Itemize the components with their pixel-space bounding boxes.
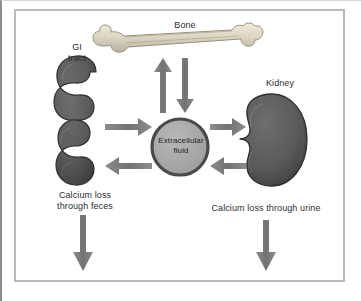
label-calcium-loss-urine: Calcium loss through urine [196,203,336,214]
label-extracellular-fluid: Extracellular fluid [151,136,211,156]
arrow-ecf-to-gi [105,157,152,175]
label-kidney: Kidney [255,78,305,89]
label-gi-tract: GI tract [57,42,97,64]
arrow-ecf-to-kidney [210,118,246,136]
arrow-gi-to-ecf [105,118,152,136]
figure-root: Bone GI tract Kidney Extracellular fluid… [0,0,361,301]
arrow-urine-output [256,220,276,271]
kidney-icon [240,94,307,186]
label-calcium-loss-feces: Calcium loss through feces [35,190,135,212]
arrow-kidney-to-ecf [210,157,246,175]
arrow-ecf-to-bone [176,58,194,113]
label-bone: Bone [160,20,210,31]
arrow-bone-to-ecf [154,58,172,113]
arrow-feces-output [73,215,93,271]
coiled-intestine-icon [54,56,96,185]
